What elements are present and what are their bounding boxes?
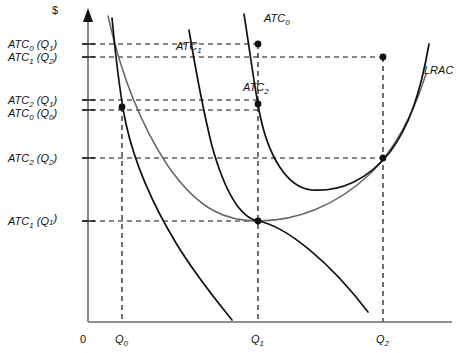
y-label-atc1q1: ATC1 (Q1) <box>7 212 57 230</box>
cost-curve-chart: $ ATC0 (Q1) ATC1 (Q2) ATC2 (Q1) ATC0 (Q0… <box>0 0 466 353</box>
point-atc2-q2 <box>380 155 387 162</box>
y-label-atc0q0: ATC0 (Q0) <box>7 107 57 122</box>
x-label-q1-sub: 1 <box>260 339 264 348</box>
y-axis-tick-labels: ATC0 (Q1) ATC1 (Q2) ATC2 (Q1) ATC0 (Q0) … <box>7 38 57 230</box>
point-lrac-q1 <box>255 218 262 225</box>
curve-lrac <box>108 16 426 221</box>
y-axis-title: $ <box>52 4 58 16</box>
curve-atc1 <box>189 30 368 312</box>
y-label-atc2q1-base: ATC <box>7 94 29 106</box>
curve-label-atc0-base: ATC <box>263 12 285 24</box>
y-label-atc0q1-base: ATC <box>7 38 29 50</box>
x-label-q1: Q1 <box>251 333 264 348</box>
x-axis-labels: 0 Q0 Q1 Q2 <box>80 333 390 348</box>
x-label-q0-sub: 0 <box>124 339 129 348</box>
point-atc0-q1 <box>255 41 262 48</box>
y-label-atc2q2: ATC2 (Q2) <box>7 152 57 167</box>
x-label-q0: Q0 <box>115 333 129 348</box>
x-label-q2-sub: 2 <box>384 339 390 348</box>
y-label-atc1q2-base: ATC <box>7 51 29 63</box>
curve-label-atc1: ATC1 <box>175 40 202 55</box>
y-label-atc0q0-base: ATC <box>7 107 29 119</box>
point-atc0-q0 <box>119 104 126 111</box>
y-label-atc1q2: ATC1 (Q2) <box>7 51 57 66</box>
y-label-atc2q2-base: ATC <box>7 152 29 164</box>
curve-labels: ATC0 ATC1 ATC2 LRAC <box>175 12 453 96</box>
curve-label-atc0-sub: 0 <box>285 18 290 27</box>
curve-label-atc2-sub: 2 <box>263 87 269 96</box>
curve-label-atc2-base: ATC <box>242 81 264 93</box>
atc2-leader-line <box>257 96 258 104</box>
point-atc1-q2 <box>380 54 387 61</box>
cost-curve-figure: $ ATC0 (Q1) ATC1 (Q2) ATC2 (Q1) ATC0 (Q0… <box>0 0 466 353</box>
y-label-atc1q1-base: ATC <box>7 215 29 227</box>
y-axis-arrow <box>83 8 93 22</box>
curve-atc2 <box>244 14 429 190</box>
x-label-q2: Q2 <box>376 333 390 348</box>
x-label-origin: 0 <box>80 333 86 345</box>
curve-label-atc1-base: ATC <box>175 40 197 52</box>
curve-label-lrac: LRAC <box>424 64 453 76</box>
curve-atc0 <box>112 18 232 320</box>
curve-label-atc1-sub: 1 <box>197 46 201 55</box>
curve-label-atc0: ATC0 <box>263 12 290 27</box>
